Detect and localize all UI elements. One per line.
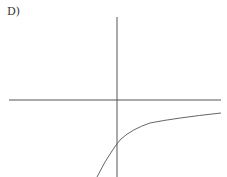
function-curve [97, 113, 221, 177]
graph [0, 0, 227, 177]
